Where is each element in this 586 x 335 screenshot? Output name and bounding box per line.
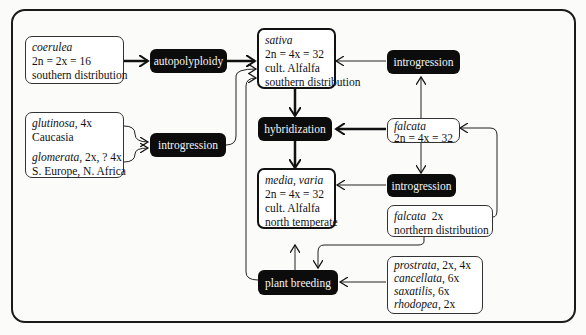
species-name: cancellata — [394, 272, 442, 284]
ploidy-text: 2n = 4x = 32 — [265, 187, 328, 201]
ploidy-text: 2n = 4x = 32 — [394, 132, 453, 144]
species-line: cancellata, 6x — [394, 272, 476, 285]
process-hybridization: hybridization — [258, 117, 332, 141]
ploidy-text: , 6x — [432, 285, 449, 297]
species-box-media-varia: media, varia 2n = 4x = 32 cult. Alfalfa … — [257, 168, 336, 229]
ploidy-text: , 4x — [75, 117, 92, 129]
ploidy-text: 2n = 4x = 32 — [265, 47, 328, 61]
process-autopolyploidy: autopolyploidy — [150, 49, 227, 73]
ploidy-text: 2x — [432, 210, 444, 222]
region-text: Caucasia — [32, 130, 117, 144]
process-introgression-top: introgression — [387, 50, 460, 74]
process-introgression-left: introgression — [150, 133, 226, 157]
species-line: rhodopea, 2x — [394, 298, 476, 311]
species-box-falcata-4x: falcata 2n = 4x = 32 — [387, 118, 460, 143]
species-box-coerulea: coerulea 2n = 2x = 16 southern distribut… — [25, 36, 124, 84]
species-name: prostrata — [394, 259, 436, 271]
species-name: falcata — [394, 120, 426, 132]
species-name: glomerata — [32, 151, 79, 163]
cultivar-text: cult. Alfalfa — [265, 201, 328, 215]
distribution-text: northern distribution — [394, 223, 486, 237]
ploidy-text: , 6x — [442, 272, 459, 284]
ploidy-text: 2n = 2x = 16 — [32, 54, 117, 68]
cultivar-text: cult. Alfalfa — [265, 61, 328, 75]
species-line: saxatilis, 6x — [394, 285, 476, 298]
species-name: glutinosa — [32, 117, 75, 129]
species-name: sativa — [265, 34, 292, 46]
species-box-others: prostrata, 2x, 4x cancellata, 6x saxatil… — [387, 256, 483, 314]
species-name: saxatilis — [394, 285, 432, 297]
process-introgression-mid: introgression — [387, 174, 456, 197]
species-box-glutinosa-glomerata: glutinosa, 4x Caucasia glomerata, 2x, ? … — [25, 112, 124, 178]
species-line: prostrata, 2x, 4x — [394, 259, 476, 272]
distribution-text: southern distribution — [32, 68, 117, 82]
process-plant-breeding: plant breeding — [258, 270, 338, 295]
species-name: falcata — [394, 210, 426, 222]
ploidy-text: , 2x, ? 4x — [79, 151, 121, 163]
region-text: S. Europe, N. Africa — [32, 164, 117, 178]
species-name: rhodopea — [394, 298, 438, 310]
species-name: coerulea — [32, 41, 72, 53]
distribution-text: north temperate — [265, 215, 328, 229]
ploidy-text: , 2x, 4x — [436, 259, 471, 271]
species-name: media, varia — [265, 174, 323, 186]
distribution-text: southern distribution — [265, 75, 328, 89]
species-box-sativa: sativa 2n = 4x = 32 cult. Alfalfa southe… — [257, 28, 336, 89]
ploidy-text: , 2x — [438, 298, 455, 310]
species-box-falcata-2x: falcata 2x northern distribution — [387, 205, 493, 237]
